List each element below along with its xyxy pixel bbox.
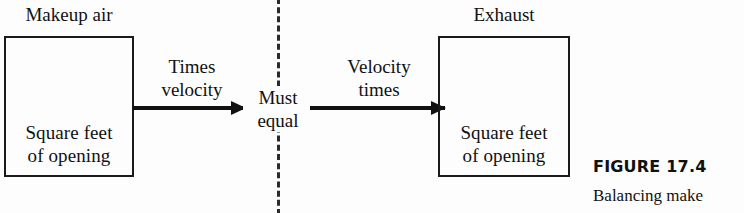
figure-caption-text: Balancing make [593, 186, 744, 206]
figure-number: FIGURE 17.4 [593, 157, 744, 177]
must-equal-label-line1: Must [258, 87, 297, 108]
exhaust-caption: Exhaust [438, 4, 570, 26]
must-equal-label-line2: equal [243, 109, 313, 132]
times-velocity-label-line2: velocity [140, 78, 244, 101]
right-flow-arrow-icon [310, 106, 445, 110]
makeup-air-box-label-line1: Square feet [25, 122, 112, 143]
figure-caption-block: FIGURE 17.4 Balancing make [593, 157, 744, 206]
makeup-air-box-label: Square feet of opening [6, 121, 132, 167]
exhaust-box-label: Square feet of opening [440, 121, 568, 167]
velocity-times-label: Velocity times [318, 55, 440, 101]
makeup-air-caption: Makeup air [4, 4, 134, 26]
makeup-air-box: Square feet of opening [4, 36, 134, 177]
times-velocity-label-line1: Times [169, 56, 216, 77]
velocity-times-label-line2: times [318, 78, 440, 101]
must-equal-label: Must equal [243, 86, 313, 132]
times-velocity-label: Times velocity [140, 55, 244, 101]
left-flow-arrow-icon [133, 106, 245, 110]
exhaust-box-label-line2: of opening [440, 144, 568, 167]
exhaust-box: Square feet of opening [438, 36, 570, 177]
makeup-air-box-label-line2: of opening [6, 144, 132, 167]
exhaust-box-label-line1: Square feet [460, 122, 547, 143]
figure-canvas: Makeup air Square feet of opening Times … [0, 0, 744, 213]
velocity-times-label-line1: Velocity [347, 56, 410, 77]
